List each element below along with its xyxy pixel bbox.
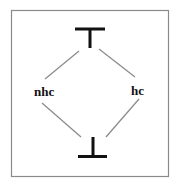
node-label-nhc: nhc <box>34 84 54 99</box>
lattice-diagram: nhc hc <box>0 0 179 188</box>
node-label-hc: hc <box>131 83 144 98</box>
